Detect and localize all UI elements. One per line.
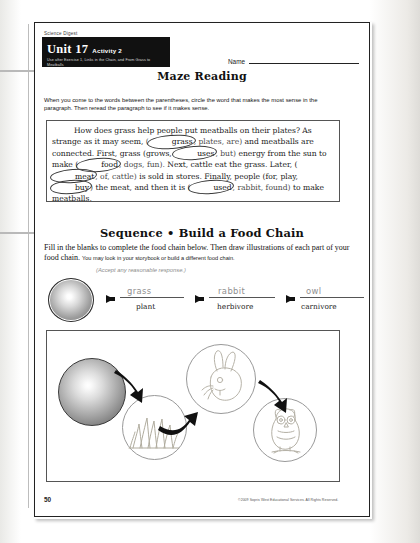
label-carnivore: carnivore xyxy=(301,302,337,311)
maze-paragraph: How does grass help people put meatballs… xyxy=(52,125,334,205)
food-chain-arrows xyxy=(46,330,340,482)
arrow-icon-2 xyxy=(195,295,203,303)
para-seg-6: the meat, and then it is ( xyxy=(95,183,190,192)
answer-plant: grass xyxy=(127,286,152,296)
page-number: 50 xyxy=(44,496,51,503)
arrow-rabbit-to-owl xyxy=(258,380,287,413)
unit-banner: Unit 17Activity 2 Use after Exercise 1, … xyxy=(42,37,170,67)
para-seg-4: Next, cattle eat the grass. Later, ( xyxy=(167,160,297,169)
para-choices-4: , of, cattle) xyxy=(95,172,137,181)
circled-word-used[interactable]: used xyxy=(190,182,232,193)
sequence-section-title: Sequence • Build a Food Chain xyxy=(42,226,362,240)
answer-carnivore: owl xyxy=(306,286,322,296)
answer-herbivore: rabbit xyxy=(218,286,245,296)
maze-instructions: When you come to the words between the p… xyxy=(44,96,344,112)
sequence-instructions: Fill in the blanks to complete the food … xyxy=(44,243,354,263)
label-herbivore: herbivore xyxy=(217,302,253,311)
name-input-line[interactable] xyxy=(249,62,359,64)
copyright-notice: ©2009 Sopris West Educational Services. … xyxy=(238,498,338,502)
food-chain-answer-row: grass plant rabbit herbivore owl carnivo… xyxy=(48,278,348,322)
arrow-icon-3 xyxy=(286,295,294,303)
para-choices-2: , but) xyxy=(215,149,236,158)
unit-subtitle: Use after Exercise 1, Links in the Chain… xyxy=(47,58,165,67)
circled-word-uses[interactable]: uses xyxy=(174,148,215,159)
activity-number: Activity 2 xyxy=(92,47,122,54)
label-plant: plant xyxy=(136,302,155,311)
name-field-group[interactable]: Name xyxy=(228,58,359,65)
circled-word-buy[interactable]: buy xyxy=(52,182,90,193)
sun-icon xyxy=(48,278,94,322)
arrow-sun-to-grass xyxy=(114,370,143,403)
answer-key-note: (Accept any reasonable response.) xyxy=(96,267,186,273)
sequence-instructions-small: You may look in your storybook or build … xyxy=(82,255,235,261)
arrow-icon-1 xyxy=(106,295,114,303)
arrow-grass-to-rabbit xyxy=(158,412,198,435)
para-choices-3: , dogs, fun). xyxy=(119,160,165,169)
para-choices-6: , rabbit, found) xyxy=(233,183,291,192)
unit-number: Unit 17 xyxy=(47,42,88,56)
name-label: Name xyxy=(228,58,245,65)
binder-rule xyxy=(28,24,29,508)
maze-section-title: Maze Reading xyxy=(42,70,362,83)
publisher-label: Science Digest xyxy=(44,31,77,36)
